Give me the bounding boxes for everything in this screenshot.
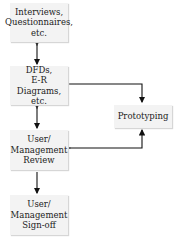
node-interviews: Interviews, Questionnaires, etc. (10, 3, 68, 42)
node-text: Questionnaires, (5, 17, 73, 28)
node-text: etc. (10, 96, 68, 107)
node-text: Sign-off (11, 220, 68, 231)
node-review: User/ Management Review (10, 130, 68, 170)
node-text: User/ (11, 199, 68, 210)
node-text: Management (11, 210, 68, 221)
node-text: User/ (11, 134, 68, 145)
node-text: etc. (5, 28, 73, 39)
node-text: DFDs, (10, 65, 68, 76)
node-signoff: User/ Management Sign-off (10, 195, 68, 235)
node-text: E-R Diagrams, (10, 75, 68, 96)
node-dfds: DFDs, E-R Diagrams, etc. (10, 66, 68, 105)
node-text: Review (11, 155, 68, 166)
node-text: Interviews, (5, 7, 73, 18)
edge-dfds-prototyping (68, 84, 142, 102)
edge-review-prototyping (70, 130, 142, 148)
node-text: Prototyping (118, 111, 169, 122)
node-prototyping: Prototyping (114, 105, 172, 128)
node-text: Management (11, 145, 68, 156)
